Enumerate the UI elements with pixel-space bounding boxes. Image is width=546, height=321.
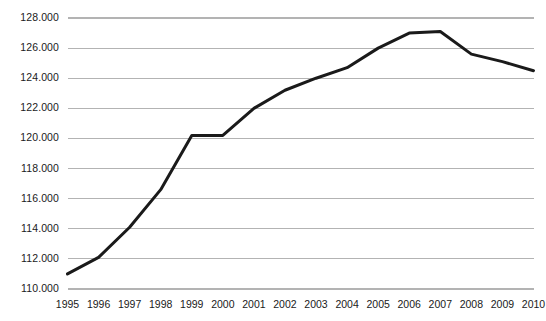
line-chart: 110.000112.000114.000116.000118.000120.0… [0, 0, 546, 321]
gridline-group [68, 18, 534, 289]
chart-plot-area [0, 0, 546, 321]
data-series-group [68, 32, 534, 274]
data-line [68, 32, 534, 274]
